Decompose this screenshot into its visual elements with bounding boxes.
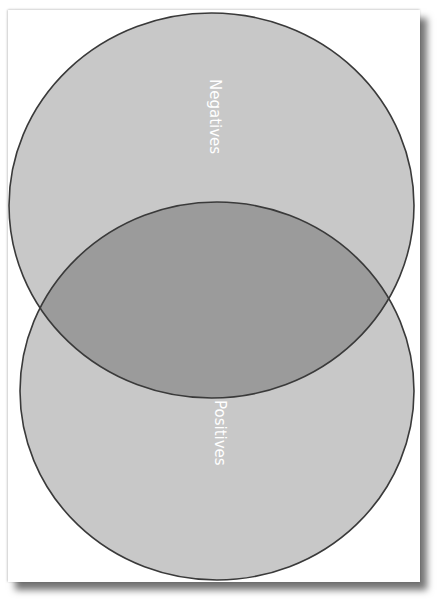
venn-diagram: Negatives Positives (0, 0, 438, 599)
negatives-label: Negatives (206, 79, 224, 154)
positives-label: Positives (211, 400, 229, 466)
